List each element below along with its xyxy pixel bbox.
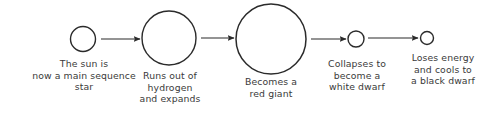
stage-circle-main-sequence <box>71 27 96 52</box>
stage-circle-black-dwarf <box>421 32 434 45</box>
stage-label-expanding: Runs out of hydrogen and expands <box>118 70 222 105</box>
stage-circle-expanding <box>142 11 196 65</box>
stage-label-black-dwarf: Loses energy and cools to a black dwarf <box>396 52 490 87</box>
stage-circle-white-dwarf <box>348 31 364 47</box>
stage-label-white-dwarf: Collapses to become a white dwarf <box>311 58 403 93</box>
stage-circle-red-giant <box>236 4 306 74</box>
stage-label-red-giant: Becomes a red giant <box>221 76 321 99</box>
star-life-cycle-diagram: The sun is now a main sequence star Runs… <box>0 0 491 115</box>
